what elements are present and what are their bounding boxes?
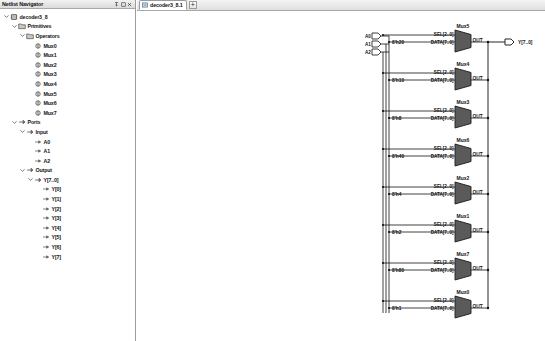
bus-junction-dot bbox=[382, 224, 384, 226]
tree-node-y1[interactable]: Y[1] bbox=[0, 194, 135, 204]
tree-node-label: Mux7 bbox=[44, 110, 57, 116]
mux-body[interactable] bbox=[455, 296, 471, 318]
tree-node-mux3[interactable]: Mux3 bbox=[0, 70, 135, 80]
mux-body[interactable] bbox=[455, 258, 471, 280]
tree-node-mux0[interactable]: Mux0 bbox=[0, 41, 135, 51]
instance-icon bbox=[34, 90, 42, 98]
mux-block-mux7[interactable]: Mux7SEL[2..0]DATA[7..0]OUT8'h80 bbox=[382, 251, 489, 281]
tree-node-a1[interactable]: A1 bbox=[0, 146, 135, 156]
tree-node-y4[interactable]: Y[4] bbox=[0, 223, 135, 233]
mux-sel-pin-label: SEL[2..0] bbox=[434, 108, 454, 113]
pin-icon bbox=[42, 205, 50, 213]
expand-collapse-chevron-icon[interactable] bbox=[11, 118, 18, 126]
panel-titlebar-buttons bbox=[114, 2, 133, 7]
mux-block-mux1[interactable]: Mux1SEL[2..0]DATA[7..0]OUT8'h2 bbox=[382, 213, 489, 243]
bus-junction-dot bbox=[388, 269, 390, 271]
mux-block-mux5[interactable]: Mux5SEL[2..0]DATA[7..0]OUT8'h20 bbox=[382, 23, 489, 53]
add-tab-button[interactable]: + bbox=[189, 1, 197, 9]
schematic-canvas[interactable]: A0A1A2Mux5SEL[2..0]DATA[7..0]OUT8'h20Mux… bbox=[137, 11, 545, 341]
netlist-tree[interactable]: decoder3_8PrimitivesOperatorsMux0Mux1Mux… bbox=[0, 10, 135, 341]
bus-junction-dot bbox=[382, 72, 384, 74]
mux-data-pin-label: DATA[7..0] bbox=[431, 116, 454, 121]
mux-out-pin-label: OUT bbox=[473, 114, 483, 119]
tree-node-primitives[interactable]: Primitives bbox=[0, 22, 135, 32]
tree-node-mux1[interactable]: Mux1 bbox=[0, 50, 135, 60]
mux-out-pin-label: OUT bbox=[473, 304, 483, 309]
close-panel-button[interactable] bbox=[127, 2, 132, 7]
tree-node-a0[interactable]: A0 bbox=[0, 137, 135, 147]
mux-data-constant-label: 8'h1 bbox=[392, 306, 402, 311]
output-bus-junction-dot bbox=[487, 79, 489, 81]
tree-node-y5[interactable]: Y[5] bbox=[0, 233, 135, 243]
pin-icon bbox=[42, 185, 50, 193]
output-port-label: Y[7..0] bbox=[518, 40, 533, 45]
tree-node-decoder3_8[interactable]: decoder3_8 bbox=[0, 12, 135, 22]
tree-node-operators[interactable]: Operators bbox=[0, 31, 135, 41]
mux-block-mux3[interactable]: Mux3SEL[2..0]DATA[7..0]OUT8'h8 bbox=[382, 99, 489, 129]
mux-body[interactable] bbox=[455, 30, 471, 52]
tree-node-y6[interactable]: Y[6] bbox=[0, 242, 135, 252]
tree-node-y70[interactable]: Y[7..0] bbox=[0, 175, 135, 185]
tree-node-mux5[interactable]: Mux5 bbox=[0, 89, 135, 99]
mux-name-label: Mux0 bbox=[457, 289, 470, 295]
mux-data-constant-label: 8'h10 bbox=[392, 78, 404, 83]
tree-node-y2[interactable]: Y[2] bbox=[0, 204, 135, 214]
tree-node-input[interactable]: Input bbox=[0, 127, 135, 137]
tree-node-label: decoder3_8 bbox=[20, 14, 48, 20]
tree-node-a2[interactable]: A2 bbox=[0, 156, 135, 166]
tree-node-output[interactable]: Output bbox=[0, 166, 135, 176]
tree-node-label: A0 bbox=[44, 139, 50, 145]
tree-node-mux4[interactable]: Mux4 bbox=[0, 79, 135, 89]
pin-icon bbox=[42, 224, 50, 232]
tree-node-label: Ports bbox=[28, 119, 41, 125]
output-bus-junction-dot bbox=[487, 307, 489, 309]
tree-node-y0[interactable]: Y[0] bbox=[0, 185, 135, 195]
mux-block-mux6[interactable]: Mux6SEL[2..0]DATA[7..0]OUT8'h40 bbox=[382, 137, 489, 167]
mux-body[interactable] bbox=[455, 144, 471, 166]
input-port-symbol-A2[interactable] bbox=[372, 49, 381, 55]
mux-data-pin-label: DATA[7..0] bbox=[431, 306, 454, 311]
tree-node-mux2[interactable]: Mux2 bbox=[0, 60, 135, 70]
expand-collapse-chevron-icon[interactable] bbox=[11, 22, 18, 30]
tree-node-y7[interactable]: Y[7] bbox=[0, 252, 135, 262]
tree-node-label: Y[6] bbox=[52, 244, 61, 250]
tree-node-ports[interactable]: Ports bbox=[0, 118, 135, 128]
mux-body[interactable] bbox=[455, 220, 471, 242]
mux-block-mux2[interactable]: Mux2SEL[2..0]DATA[7..0]OUT8'h4 bbox=[382, 175, 489, 205]
bus-junction-dot bbox=[382, 300, 384, 302]
bus-junction-dot bbox=[388, 193, 390, 195]
mux-body[interactable] bbox=[455, 68, 471, 90]
expand-collapse-chevron-icon[interactable] bbox=[27, 176, 34, 184]
netlist-navigator-titlebar: Netlist Navigator bbox=[0, 0, 135, 9]
expand-collapse-chevron-icon[interactable] bbox=[19, 32, 26, 40]
tab-decoder3_8-1[interactable]: decoder3_8.1 bbox=[139, 0, 187, 10]
mux-out-pin-label: OUT bbox=[473, 266, 483, 271]
output-bus-junction-dot bbox=[487, 155, 489, 157]
mux-body[interactable] bbox=[455, 182, 471, 204]
bus-junction-dot bbox=[388, 117, 390, 119]
tree-node-label: Y[2] bbox=[52, 206, 61, 212]
input-ports-group: A0A1A2 bbox=[365, 33, 389, 55]
float-button[interactable] bbox=[121, 2, 126, 7]
expand-collapse-chevron-icon[interactable] bbox=[3, 13, 10, 21]
mux-block-mux4[interactable]: Mux4SEL[2..0]DATA[7..0]OUT8'h10 bbox=[382, 61, 489, 91]
mux-name-label: Mux6 bbox=[457, 137, 470, 143]
tree-node-label: Y[4] bbox=[52, 225, 61, 231]
mux-sel-pin-label: SEL[2..0] bbox=[434, 146, 454, 151]
mux-data-pin-label: DATA[7..0] bbox=[431, 40, 454, 45]
tree-node-mux6[interactable]: Mux6 bbox=[0, 98, 135, 108]
instance-icon bbox=[34, 42, 42, 50]
mux-data-constant-label: 8'h8 bbox=[392, 116, 402, 121]
expand-collapse-chevron-icon[interactable] bbox=[19, 166, 26, 174]
mux-body[interactable] bbox=[455, 106, 471, 128]
input-port-symbol-A1[interactable] bbox=[372, 41, 381, 47]
mux-block-mux0[interactable]: Mux0SEL[2..0]DATA[7..0]OUT8'h1 bbox=[382, 289, 489, 319]
expand-collapse-chevron-icon[interactable] bbox=[19, 128, 26, 136]
output-port-symbol[interactable] bbox=[505, 39, 514, 45]
tree-node-mux7[interactable]: Mux7 bbox=[0, 108, 135, 118]
bus-junction-dot bbox=[382, 186, 384, 188]
schematic-drawing: A0A1A2Mux5SEL[2..0]DATA[7..0]OUT8'h20Mux… bbox=[137, 11, 545, 341]
auto-hide-pin-button[interactable] bbox=[114, 2, 119, 7]
tree-node-y3[interactable]: Y[3] bbox=[0, 213, 135, 223]
input-port-symbol-A0[interactable] bbox=[372, 33, 381, 39]
